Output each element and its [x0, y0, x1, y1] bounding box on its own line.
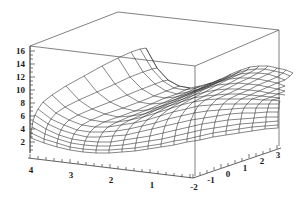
z-axis-tick-labels: 16 14 12 10 8 6 4 2 [16, 46, 26, 147]
z-tick-label-2: 2 [21, 137, 26, 147]
box-top-face [30, 12, 279, 66]
axes [28, 46, 281, 178]
surface-plot-figure: 16 14 12 10 8 6 4 2 4 3 2 1 -2 -1 0 1 2 … [0, 0, 297, 197]
x-tick-label-1: 1 [150, 180, 155, 190]
mesh-rows [31, 48, 293, 153]
y-tick-label-0: 0 [226, 169, 231, 179]
mesh-columns [31, 48, 293, 153]
z-tick-label-6: 6 [21, 111, 26, 121]
ridge-crest [146, 48, 190, 88]
y-tick-label-3: 3 [276, 150, 281, 160]
x-tick-label-3: 3 [69, 170, 74, 180]
x-tick-label-4: 4 [29, 165, 34, 175]
y-tick-label-neg2: -2 [190, 182, 198, 192]
z-tick-label-10: 10 [16, 85, 26, 95]
plot-canvas: 16 14 12 10 8 6 4 2 4 3 2 1 -2 -1 0 1 2 … [0, 0, 297, 197]
y-axis-line [193, 148, 281, 178]
y-axis-tick-labels: -2 -1 0 1 2 3 [190, 150, 281, 192]
y-tick-label-1: 1 [243, 163, 248, 173]
x-tick-label-2: 2 [109, 175, 114, 185]
y-tick-label-neg1: -1 [207, 175, 215, 185]
y-tick-label-2: 2 [260, 156, 265, 166]
x-axis-tick-labels: 4 3 2 1 [29, 165, 155, 190]
z-tick-label-12: 12 [16, 72, 26, 82]
z-tick-label-14: 14 [16, 59, 26, 69]
surface-wireframe [31, 48, 293, 153]
y-axis-ticks [193, 145, 277, 178]
z-tick-label-8: 8 [21, 98, 26, 108]
z-tick-label-16: 16 [16, 46, 26, 56]
z-tick-label-4: 4 [21, 124, 26, 134]
